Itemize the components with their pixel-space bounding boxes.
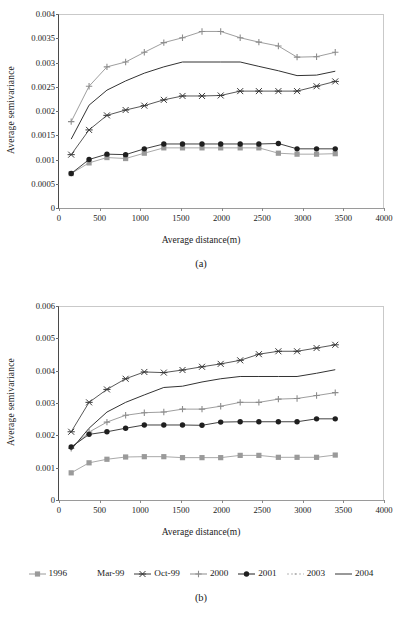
data-point-star: [275, 88, 282, 94]
data-point-star: [332, 342, 339, 348]
data-point-square: [142, 454, 147, 459]
data-point-square: [104, 457, 109, 462]
data-point-square: [256, 453, 261, 458]
data-point-plus: [217, 28, 223, 34]
data-point-star: [179, 93, 186, 99]
panel-b-x-tick-mark: [384, 500, 385, 503]
panel-a-y-axis-title: Average semivariance: [4, 20, 18, 200]
panel-b-x-tick-mark: [343, 500, 344, 503]
series-line-2004: [71, 62, 335, 139]
legend-label-1996: 1996: [49, 569, 67, 578]
chart-legend: 1996Mar-99Oct-992000200120032004: [0, 566, 402, 582]
data-point-square: [180, 455, 185, 460]
data-point-circle: [123, 152, 128, 157]
legend-item-mar-99[interactable]: Mar-99: [77, 569, 124, 579]
legend-swatch-2004: [335, 569, 352, 579]
data-point-circle: [123, 426, 128, 431]
data-point-circle: [256, 419, 261, 424]
legend-item-2000[interactable]: 2000: [190, 569, 228, 579]
legend-item-1996[interactable]: 1996: [29, 569, 67, 579]
legend-item-oct-99[interactable]: Oct-99: [134, 569, 180, 579]
data-point-circle: [161, 141, 166, 146]
data-point-star: [217, 361, 224, 367]
data-point-circle: [314, 146, 319, 151]
data-point-circle: [333, 146, 338, 151]
data-point-circle: [104, 151, 109, 156]
legend-label-mar-99: Mar-99: [97, 569, 124, 578]
panel-b-x-axis-title: Average distance(m): [0, 527, 402, 537]
series-line-2000: [71, 31, 335, 121]
panel-a-x-tick-mark: [384, 208, 385, 211]
data-point-square: [276, 151, 281, 156]
data-point-circle: [180, 141, 185, 146]
data-point-plus: [237, 399, 243, 405]
data-point-star: [141, 103, 148, 109]
panel-b-series-layer: [59, 306, 384, 500]
data-point-circle: [256, 141, 261, 146]
data-point-plus: [313, 392, 319, 398]
data-point-star: [293, 348, 300, 354]
panel-b: Average semivariance 00.0010.0020.0030.0…: [0, 292, 402, 560]
data-point-circle: [218, 141, 223, 146]
data-point-square: [294, 152, 299, 157]
panel-b-x-tick-mark: [262, 500, 263, 503]
data-point-plus: [179, 35, 185, 41]
data-point-circle: [237, 141, 242, 146]
data-point-plus: [68, 118, 74, 124]
data-point-circle: [199, 141, 204, 146]
data-point-plus: [217, 403, 223, 409]
panel-a-y-tick-label: 0.0035: [31, 33, 59, 43]
data-point-star: [122, 376, 129, 382]
data-point-circle: [180, 422, 185, 427]
legend-item-2003[interactable]: 2003: [287, 569, 325, 579]
panel-b-x-tick-mark: [303, 500, 304, 503]
data-point-star: [85, 127, 92, 133]
data-point-circle: [276, 419, 281, 424]
data-point-star: [293, 88, 300, 94]
data-point-square: [314, 455, 319, 460]
data-point-star: [255, 88, 262, 94]
panel-a-x-tick-mark: [59, 208, 60, 211]
data-point-plus: [256, 399, 262, 405]
panel-a-x-tick-mark: [140, 208, 141, 211]
data-point-plus: [294, 395, 300, 401]
data-point-plus: [122, 59, 128, 65]
panel-b-x-tick-mark: [222, 500, 223, 503]
panel-a-plot-area: 00.00050.0010.00150.0020.00250.0030.0035…: [58, 14, 384, 209]
legend-item-2001[interactable]: 2001: [238, 569, 276, 579]
legend-item-2004[interactable]: 2004: [335, 569, 373, 579]
data-point-circle: [333, 416, 338, 421]
panel-b-x-tick-mark: [140, 500, 141, 503]
panel-a-x-tick-mark: [262, 208, 263, 211]
panel-b-x-tick-mark: [100, 500, 101, 503]
data-point-circle: [142, 422, 147, 427]
data-point-star: [68, 429, 75, 435]
data-point-circle: [314, 416, 319, 421]
data-point-star: [198, 93, 205, 99]
data-point-dot: [294, 573, 296, 575]
data-point-plus: [179, 406, 185, 412]
data-point-star: [237, 357, 244, 363]
data-point-square: [218, 455, 223, 460]
legend-label-2003: 2003: [307, 569, 325, 578]
data-point-star: [313, 345, 320, 351]
data-point-star: [275, 348, 282, 354]
data-point-plus: [332, 49, 338, 55]
data-point-star: [139, 571, 146, 577]
data-point-star: [332, 78, 339, 84]
data-point-square: [161, 454, 166, 459]
panel-a-y-tick-label: 0.0005: [31, 179, 59, 189]
data-point-plus: [313, 53, 319, 59]
data-point-square: [276, 455, 281, 460]
data-point-star: [85, 399, 92, 405]
panel-a-caption: (a): [0, 258, 402, 269]
legend-swatch-1996: [29, 569, 46, 579]
data-point-circle: [294, 146, 299, 151]
panel-a-y-tick-label: 0.0015: [31, 130, 59, 140]
data-point-star: [141, 369, 148, 375]
data-point-circle: [237, 419, 242, 424]
panel-a-y-tick-label: 0.0025: [31, 82, 59, 92]
data-point-star: [122, 107, 129, 113]
data-point-circle: [161, 422, 166, 427]
data-point-star: [103, 386, 110, 392]
